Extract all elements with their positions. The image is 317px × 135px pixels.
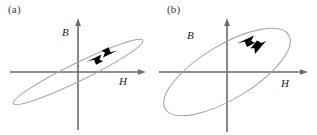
y-axis-label-a: B <box>62 27 69 38</box>
x-axis-label-a: H <box>119 76 127 87</box>
x-axis-b <box>159 69 308 75</box>
y-axis-label-b: B <box>187 30 194 41</box>
direction-arrow-down-left-b <box>237 36 255 48</box>
panel-a-plot <box>0 0 158 135</box>
x-axis-label-b: H <box>281 78 289 89</box>
panel-b-plot <box>159 0 317 135</box>
panel-b: (b) B H <box>159 0 317 135</box>
figure-root: (a) B H <box>0 0 317 135</box>
y-axis-a <box>75 18 81 130</box>
panel-label-b: (b) <box>167 4 180 15</box>
direction-arrow-down-left-a <box>87 55 103 65</box>
panel-label-a: (a) <box>8 4 21 15</box>
panel-a: (a) B H <box>0 0 158 135</box>
y-axis-b <box>224 18 230 132</box>
